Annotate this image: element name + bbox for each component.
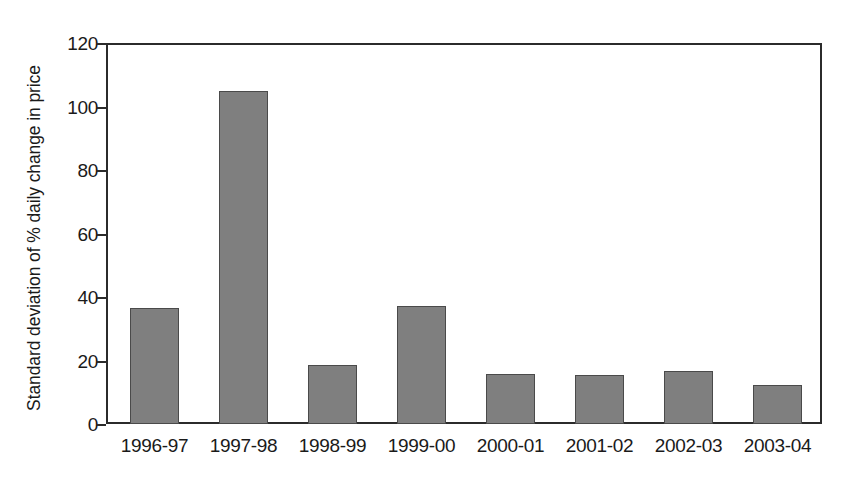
tick-mark-100 [97,107,106,109]
y-tick-label-120: 120 [50,34,98,53]
bar-2001-02 [575,375,624,424]
tick-mark-80 [97,170,106,172]
bar-1998-99 [308,365,357,424]
x-tick-label-1996-97: 1996-97 [121,436,189,455]
y-tick-label-100: 100 [50,97,98,116]
y-axis-tick-labels: 0 20 40 60 80 100 120 [46,0,98,496]
y-axis-title: Standard deviation of % daily change in … [24,38,46,438]
bar-1996-97 [130,308,179,424]
y-tick-label-20: 20 [50,351,98,370]
tick-mark-40 [97,297,106,299]
tick-mark-120 [97,43,106,45]
bar-2000-01 [486,374,535,424]
x-tick-label-2002-03: 2002-03 [655,436,723,455]
bar-1997-98 [219,91,268,424]
x-tick-label-2001-02: 2001-02 [566,436,634,455]
tick-mark-60 [97,234,106,236]
y-tick-label-0: 0 [50,415,98,434]
bars-layer [106,43,822,424]
y-tick-label-40: 40 [50,288,98,307]
x-tick-label-2003-04: 2003-04 [744,436,812,455]
y-tick-label-80: 80 [50,161,98,180]
x-tick-label-1998-99: 1998-99 [299,436,367,455]
x-tick-label-1997-98: 1997-98 [210,436,278,455]
tick-mark-20 [97,361,106,363]
y-tick-label-60: 60 [50,224,98,243]
bar-2003-04 [753,385,802,424]
x-tick-label-1999-00: 1999-00 [388,436,456,455]
bar-chart-figure: Standard deviation of % daily change in … [0,0,857,496]
x-axis-tick-labels: 1996-97 1997-98 1998-99 1999-00 2000-01 … [106,436,822,466]
tick-mark-0 [97,424,106,426]
bar-2002-03 [664,371,713,424]
bar-1999-00 [397,306,446,424]
x-tick-label-2000-01: 2000-01 [477,436,545,455]
